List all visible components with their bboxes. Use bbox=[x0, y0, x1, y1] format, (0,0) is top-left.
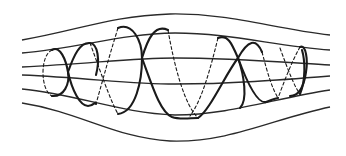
field-line-5 bbox=[22, 89, 330, 115]
field-line-2 bbox=[22, 33, 330, 53]
particle-trajectory bbox=[43, 27, 307, 119]
field-line-6 bbox=[22, 103, 330, 141]
magnetic-bottle-diagram bbox=[0, 0, 346, 156]
trajectory-front-solid bbox=[52, 27, 307, 119]
field-line-1 bbox=[22, 14, 330, 40]
